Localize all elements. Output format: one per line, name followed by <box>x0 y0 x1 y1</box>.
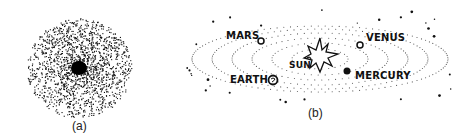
label-mars: MARS <box>226 30 259 41</box>
label-sun: SUN <box>289 60 311 70</box>
mercury-planet <box>344 68 351 75</box>
venus-planet <box>357 42 363 48</box>
label-mercury: MERCURY <box>355 70 411 81</box>
earth-planet <box>269 76 278 85</box>
caption-b: (b) <box>308 106 323 120</box>
caption-a: (a) <box>72 119 87 133</box>
label-earth: EARTH <box>230 74 268 85</box>
label-venus: VENUS <box>366 32 405 43</box>
panel-a-nebula: (a) <box>0 0 160 140</box>
panel-b-solar-system: MARS VENUS SUN EARTH MERCURY (b) <box>160 0 471 140</box>
